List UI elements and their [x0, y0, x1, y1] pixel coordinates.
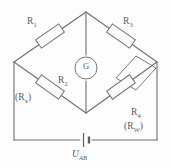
circuit-schematic	[0, 0, 172, 168]
wheatstone-bridge-diagram: R1 R3 R2 (Rx) R4 (RW) UAB G	[0, 0, 172, 168]
label-rx: (Rx)	[15, 93, 31, 104]
label-rw: (RW)	[124, 122, 143, 133]
label-r2: R2	[58, 76, 68, 87]
resistor-r1-icon	[36, 24, 65, 48]
label-r1: R1	[27, 17, 37, 28]
label-source-voltage: UAB	[72, 150, 87, 161]
label-r3: R3	[123, 17, 133, 28]
label-galvanometer: G	[83, 62, 89, 71]
label-r4: R4	[131, 108, 141, 119]
